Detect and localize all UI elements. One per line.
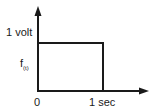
origin-label: 0 [34,96,40,108]
y-tick-label: 1 volt [6,26,32,38]
x-axis-arrow-icon [139,88,149,95]
pulse-diagram [0,0,158,112]
function-label: f(t) [20,57,29,71]
x-tick-label: 1 sec [89,96,115,108]
pulse-waveform [38,43,103,91]
y-axis-arrow-icon [35,6,42,16]
function-subscript: (t) [23,65,29,71]
